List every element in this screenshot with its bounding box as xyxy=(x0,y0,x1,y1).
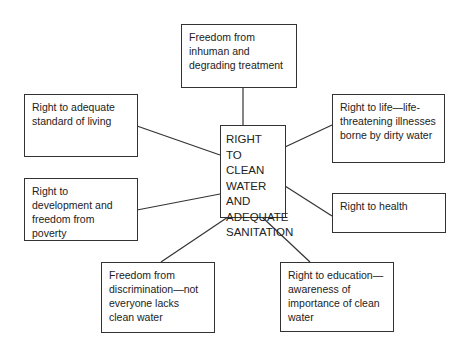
connector-right-middle xyxy=(285,186,332,216)
node-bottom-right: Right to education—awareness of importan… xyxy=(280,262,394,332)
center-node: RIGHT TO CLEAN WATER AND ADEQUATE SANITA… xyxy=(220,125,286,218)
node-bottom-left-text: Freedom from discrimination—not everyone… xyxy=(109,269,198,323)
node-top: Freedom from inhuman and degrading treat… xyxy=(181,24,297,88)
node-right-top-text: Right to life—life-threatening illnesses… xyxy=(340,101,436,141)
node-right-middle: Right to health xyxy=(332,193,446,233)
center-node-text: RIGHT TO CLEAN WATER AND ADEQUATE SANITA… xyxy=(226,133,293,238)
connector-left-middle xyxy=(137,194,220,210)
connector-bottom-left xyxy=(161,217,228,262)
node-left-top: Right to adequate standard of living xyxy=(24,94,138,157)
node-right-top: Right to life—life-threatening illnesses… xyxy=(332,94,445,163)
node-bottom-left: Freedom from discrimination—not everyone… xyxy=(101,262,215,333)
node-bottom-right-text: Right to education—awareness of importan… xyxy=(288,269,383,323)
node-left-middle-text: Right to development and freedom from po… xyxy=(32,185,113,239)
node-left-top-text: Right to adequate standard of living xyxy=(32,101,115,127)
node-top-text: Freedom from inhuman and degrading treat… xyxy=(189,31,283,71)
node-right-middle-text: Right to health xyxy=(340,200,408,212)
node-left-middle: Right to development and freedom from po… xyxy=(24,178,138,241)
connector-right-top xyxy=(285,125,332,147)
connector-left-top xyxy=(137,126,220,155)
